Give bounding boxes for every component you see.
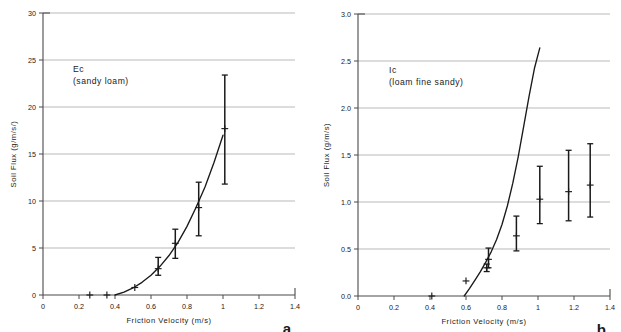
chart-a-canvas: 00.20.40.60.811.21.4051015202530Ec(sandy… <box>0 0 311 332</box>
fit-curve <box>464 48 540 296</box>
y-axis-title: Soil Flux (g/m/s/) <box>9 121 18 188</box>
data-point <box>104 292 111 299</box>
panel-annotations: Ec(sandy loam) <box>73 64 129 86</box>
x-tick-label: 0.6 <box>461 303 471 312</box>
x-axis-title: Friction Velocity (m/s) <box>441 317 526 326</box>
data-point <box>86 292 93 299</box>
chart-panel-b: 00.20.40.60.811.21.40.00.51.01.52.02.53.… <box>311 0 621 332</box>
data-point <box>536 166 543 223</box>
x-tick-label: 1.4 <box>290 302 300 311</box>
panel-annotations: Ic(loam fine sandy) <box>389 65 463 87</box>
grid-lines <box>358 14 610 249</box>
chart-panel-a: 00.20.40.60.811.21.4051015202530Ec(sandy… <box>0 0 311 332</box>
y-tick-label: 25 <box>28 56 36 65</box>
data-point <box>513 216 520 251</box>
y-tick-label: 0.5 <box>341 245 351 254</box>
series-title: Ic <box>389 65 397 75</box>
y-axis-ticks: 0.00.51.01.52.02.53.0 <box>341 10 358 301</box>
x-tick-label: 0.6 <box>146 302 156 311</box>
x-axis-ticks: 00.20.40.60.811.21.4 <box>41 295 300 311</box>
x-axis-title: Friction Velocity (m/s) <box>126 316 211 325</box>
fit-curve-path <box>464 48 540 296</box>
figure-two-panel-soil-flux: 00.20.40.60.811.21.4051015202530Ec(sandy… <box>0 0 621 332</box>
data-point <box>463 278 470 285</box>
x-tick-label: 0.8 <box>497 303 507 312</box>
data-point <box>221 75 228 184</box>
x-tick-label: 0.2 <box>74 302 84 311</box>
data-point <box>565 150 572 221</box>
series-subtitle: (sandy loam) <box>73 76 129 86</box>
y-tick-label: 0.0 <box>341 292 351 301</box>
chart-b-canvas: 00.20.40.60.811.21.40.00.51.01.52.02.53.… <box>311 0 621 332</box>
x-tick-label: 0.4 <box>110 302 120 311</box>
x-tick-label: 0.2 <box>389 303 399 312</box>
panel-letter: b <box>597 321 606 332</box>
y-tick-label: 15 <box>28 150 36 159</box>
x-tick-label: 1.2 <box>254 302 264 311</box>
y-tick-label: 1.5 <box>341 151 351 160</box>
x-tick-label: 0.4 <box>425 303 435 312</box>
fit-curve-path <box>115 135 223 295</box>
series-subtitle: (loam fine sandy) <box>389 77 463 87</box>
x-axis-ticks: 00.20.40.60.811.21.4 <box>356 296 615 312</box>
x-tick-label: 0.8 <box>182 302 192 311</box>
data-point <box>172 229 179 258</box>
data-points <box>86 75 228 298</box>
x-tick-label: 1.2 <box>569 303 579 312</box>
x-tick-label: 0 <box>356 303 360 312</box>
y-tick-label: 10 <box>28 197 36 206</box>
y-tick-label: 0 <box>32 291 36 300</box>
y-tick-label: 30 <box>28 9 36 18</box>
x-tick-label: 1 <box>536 303 540 312</box>
y-tick-label: 2.5 <box>341 57 351 66</box>
panel-letter: a <box>283 320 292 332</box>
y-axis-ticks: 051015202530 <box>28 9 43 300</box>
data-point <box>428 293 435 300</box>
fit-curve <box>115 135 223 295</box>
data-points <box>428 144 593 300</box>
y-tick-label: 1.0 <box>341 198 351 207</box>
y-tick-label: 5 <box>32 244 36 253</box>
series-title: Ec <box>73 64 84 74</box>
y-tick-label: 3.0 <box>341 10 351 19</box>
grid-lines <box>43 13 295 248</box>
y-axis-title: Soil Flux (g/m/s) <box>322 123 331 187</box>
x-tick-label: 1.4 <box>605 303 615 312</box>
x-tick-label: 1 <box>221 302 225 311</box>
y-tick-label: 2.0 <box>341 104 351 113</box>
x-tick-label: 0 <box>41 302 45 311</box>
data-point <box>195 182 202 236</box>
y-tick-label: 20 <box>28 103 36 112</box>
